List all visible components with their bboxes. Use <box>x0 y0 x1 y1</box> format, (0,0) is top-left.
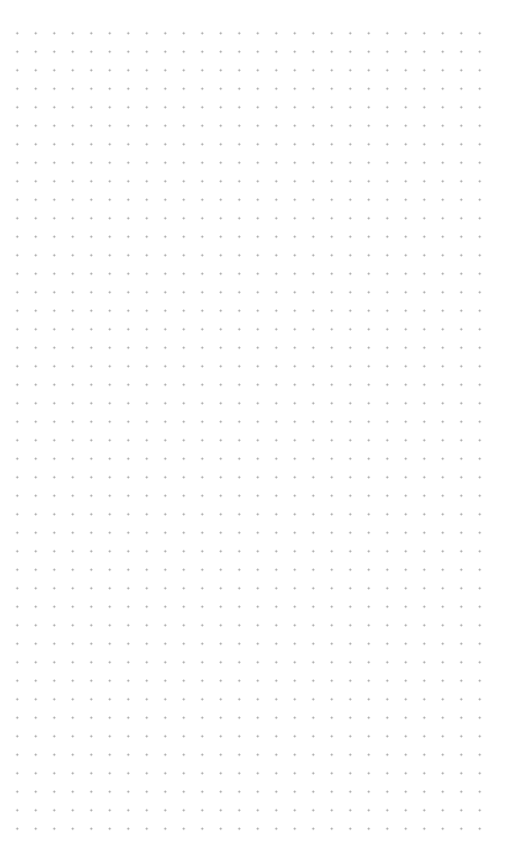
dot-grid-canvas[interactable] <box>8 24 489 838</box>
